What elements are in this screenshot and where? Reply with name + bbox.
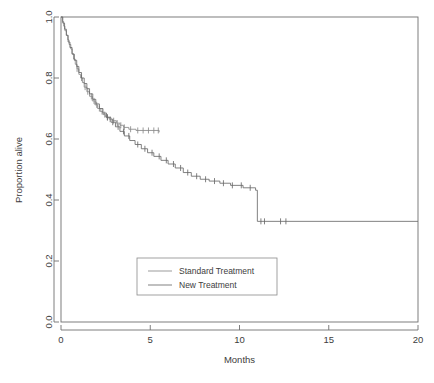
y-axis-tick-label: 0.8 [43,71,54,84]
survival-curve [61,17,159,132]
legend-label: Standard Treatment [179,266,255,276]
x-axis-tick-label: 10 [234,334,245,345]
x-axis-title: Months [224,354,255,365]
y-axis-tick-label: 0.2 [43,254,54,267]
legend-label: New Treatment [179,280,237,290]
x-axis-tick-label: 0 [58,334,63,345]
series-standard-treatment [61,17,159,133]
y-axis-title: Proportion alive [13,137,24,203]
y-axis-tick-label: 0.4 [43,193,54,206]
x-axis-tick-label: 5 [148,334,153,345]
plot-frame [61,17,418,322]
y-axis-tick-label: 0.6 [43,132,54,145]
y-axis: 0.00.20.40.60.81.0 [43,10,59,328]
x-axis-tick-label: 20 [413,334,424,345]
survival-plot-figure: 0.00.20.40.60.81.0 05101520 Standard Tre… [0,0,434,383]
x-axis-tick-label: 15 [323,334,334,345]
data-series-group [61,17,418,224]
y-axis-tick-label: 1.0 [43,10,54,23]
survival-curve [61,17,418,221]
chart-legend: Standard TreatmentNew Treatment [137,258,277,295]
y-axis-tick-label: 0.0 [43,315,54,328]
x-axis: 05101520 [58,325,423,345]
kaplan-meier-chart: 0.00.20.40.60.81.0 05101520 Standard Tre… [0,0,434,383]
